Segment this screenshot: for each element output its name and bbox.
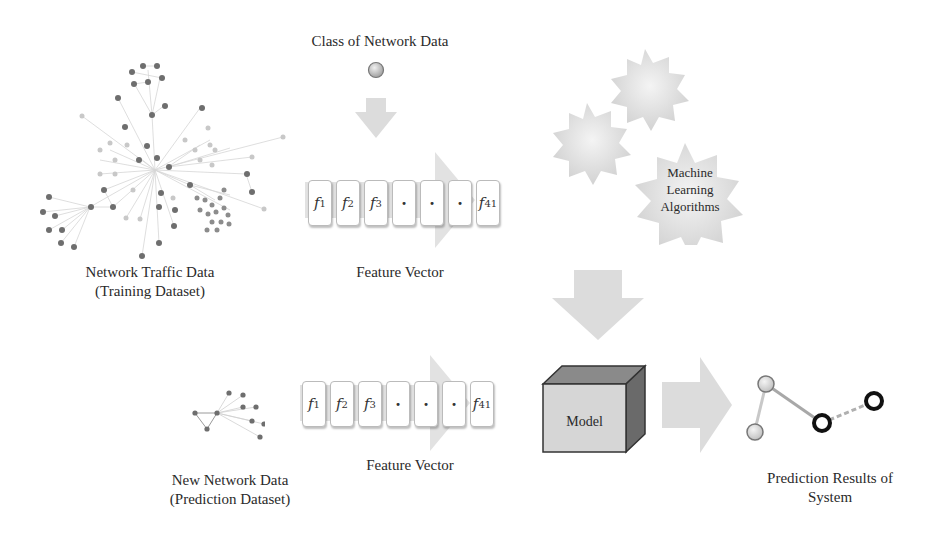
feature-cell: · (392, 180, 416, 226)
model-label: Model (543, 412, 626, 431)
feature-cell: f41 (476, 180, 500, 226)
feature-cell: f41 (470, 381, 494, 427)
feature-vector-bottom-label: Feature Vector (330, 456, 490, 475)
down-arrow-icon (552, 270, 644, 340)
feature-cell: · (442, 381, 466, 427)
training-data-label: Network Traffic Data (Training Dataset) (40, 263, 260, 301)
feature-vector-top: f1 f2 f3 · · · f41 (308, 180, 508, 226)
feature-cell: f2 (330, 381, 354, 427)
gears-icon (535, 45, 745, 245)
small-network-graph-icon (185, 385, 265, 455)
feature-cell: f1 (302, 381, 326, 427)
right-arrow-icon (662, 357, 732, 453)
feature-cell: · (448, 180, 472, 226)
class-node-icon (366, 60, 386, 80)
feature-cell: f1 (308, 180, 332, 226)
down-arrow-icon (355, 98, 397, 138)
feature-vector-top-label: Feature Vector (320, 263, 480, 282)
feature-cell: f3 (364, 180, 388, 226)
feature-cell: f3 (358, 381, 382, 427)
feature-cell: · (420, 180, 444, 226)
network-graph-icon (30, 50, 300, 270)
class-label: Class of Network Data (270, 32, 490, 51)
algorithms-label: Machine Learning Algorithms (640, 164, 740, 215)
result-nodes-icon (740, 370, 890, 450)
cube-icon (540, 364, 650, 456)
feature-vector-bottom: f1 f2 f3 · · · f41 (302, 381, 502, 427)
feature-cell: f2 (336, 180, 360, 226)
prediction-results-label: Prediction Results of System (740, 469, 920, 507)
feature-cell: · (414, 381, 438, 427)
prediction-data-label: New Network Data (Prediction Dataset) (140, 471, 320, 509)
feature-cell: · (386, 381, 410, 427)
